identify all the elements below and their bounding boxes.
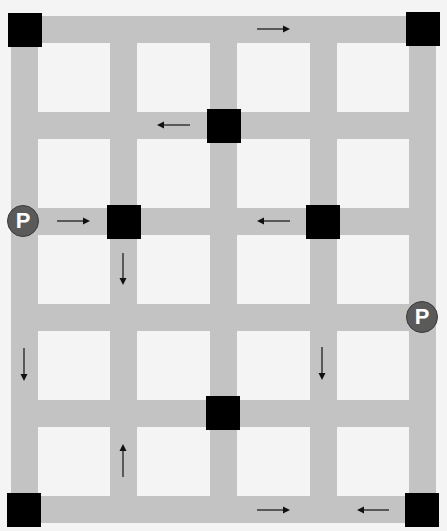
arrows-layer — [0, 0, 447, 531]
arrow-top-right-icon — [257, 26, 290, 33]
arrow-row2-left-icon — [157, 122, 190, 129]
arrow-row3-right-icon — [57, 218, 90, 225]
arrow-bottom-right-icon — [257, 507, 290, 514]
arrow-row3-left-icon — [257, 218, 290, 225]
arrow-bottom-left-icon — [357, 507, 389, 514]
arrow-col1-down-icon — [21, 348, 28, 381]
road-grid-map: PP — [0, 0, 447, 531]
arrow-col2-up-icon — [120, 444, 127, 477]
arrow-col2-down-icon — [120, 253, 127, 285]
arrow-col4-down-icon — [319, 347, 326, 380]
